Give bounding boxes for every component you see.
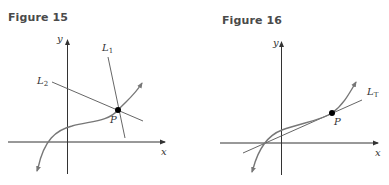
x-axis-label: x [375,148,381,158]
line-l1-label: L1 [102,43,113,55]
figure-16-title: Figure 16 [222,14,282,27]
line-l2 [52,82,143,121]
x-axis-label: x [161,147,167,157]
point-p [115,107,121,113]
curve [38,83,142,168]
line-l2-letter: L [37,75,44,86]
y-axis-label: y [273,38,279,48]
figures-canvas [0,0,389,185]
line-l1-letter: L [102,42,109,53]
tangent-letter: L [367,86,374,97]
tangent-line [243,100,362,153]
figure-16-graph [220,42,378,175]
line-l1 [108,57,125,138]
point-p-label: P [110,115,117,125]
tangent-subscript: T [374,91,379,99]
line-l2-label: L2 [37,76,48,88]
point-p-label: P [334,117,341,127]
figure-15-graph [8,40,165,174]
tangent-label: LT [367,87,378,99]
y-axis-label: y [57,34,63,44]
line-l1-subscript: 1 [109,47,113,55]
line-l2-subscript: 2 [44,80,48,88]
